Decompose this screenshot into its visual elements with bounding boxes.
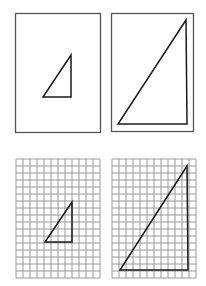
- panel-grid-large: [112, 159, 196, 278]
- panel-frame: [16, 14, 101, 133]
- right-triangle: [118, 20, 187, 124]
- panel-plain-large: [112, 14, 194, 132]
- right-triangle: [43, 55, 71, 97]
- similar-triangles-diagram: [0, 0, 206, 286]
- panel-plain-small: [16, 14, 101, 133]
- panel-grid-small: [16, 159, 100, 278]
